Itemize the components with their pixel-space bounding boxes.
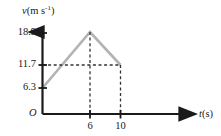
velocity-curve bbox=[43, 32, 121, 88]
x-tick-label-10: 10 bbox=[110, 121, 131, 132]
y-axis-title-unit: (m s bbox=[27, 5, 45, 16]
y-tick-label-18-9: 18.9 bbox=[0, 27, 36, 38]
x-tick-label-6: 6 bbox=[80, 121, 100, 132]
y-tick-label-6-3: 6.3 bbox=[0, 82, 36, 93]
x-axis-title: t(s) bbox=[199, 109, 213, 120]
y-tick-label-11-7: 11.7 bbox=[0, 59, 36, 70]
origin-label: O bbox=[29, 108, 37, 119]
x-axis-title-unit: (s) bbox=[202, 108, 213, 119]
y-axis-title: v(m s-1) bbox=[22, 6, 54, 17]
y-axis-title-close-paren: ) bbox=[51, 5, 55, 16]
velocity-time-graph-figure: v(m s-1) t(s) O 18.9 11.7 6.3 6 10 bbox=[0, 0, 221, 136]
